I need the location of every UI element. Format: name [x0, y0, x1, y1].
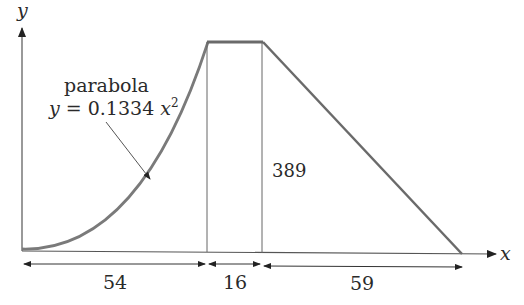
parabola-trapezoid-diagram: y x parabola y = 0.1334 x2 389 54 16 59 [0, 0, 524, 305]
height-label: 389 [272, 160, 306, 181]
x-axis [22, 251, 496, 254]
equation-y: y [48, 97, 60, 119]
parabola-label: parabola [64, 74, 149, 96]
parabola-equation: y = 0.1334 x2 [48, 96, 179, 119]
dimension-label-59: 59 [350, 272, 374, 294]
equation-x: x [160, 97, 171, 119]
equation-exponent: 2 [171, 96, 179, 110]
equation-body: = 0.1334 [60, 97, 154, 119]
curve-pointer [106, 122, 150, 179]
dimension-label-54: 54 [103, 271, 127, 293]
x-axis-label: x [500, 242, 511, 264]
dimension-59 [264, 266, 462, 267]
dimension-label-16: 16 [223, 271, 247, 293]
descending-slope [263, 42, 462, 254]
y-axis-label: y [16, 0, 28, 21]
